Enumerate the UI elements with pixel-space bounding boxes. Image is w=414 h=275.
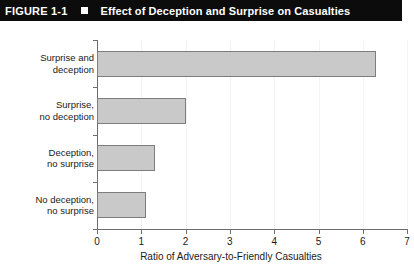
- category-label-line: Surprise and: [0, 52, 94, 64]
- x-tick-label: 6: [353, 236, 373, 247]
- category-label-line: Deception,: [0, 147, 94, 159]
- x-tick-label: 3: [220, 236, 240, 247]
- x-tick: [363, 230, 364, 234]
- category-label: Surprise,no deception: [0, 99, 94, 122]
- category-label-line: No deception,: [0, 194, 94, 206]
- x-axis-line: [97, 229, 408, 230]
- y-tick: [93, 182, 98, 183]
- figure-header-bar: FIGURE 1-1 Effect of Deception and Surpr…: [0, 0, 402, 21]
- category-label-line: deception: [0, 64, 94, 76]
- bar: [97, 51, 376, 77]
- x-tick: [407, 230, 408, 234]
- category-label: No deception,no surprise: [0, 194, 94, 217]
- square-bullet-icon: [81, 7, 88, 14]
- y-tick: [93, 135, 98, 136]
- figure-title: Effect of Deception and Surprise on Casu…: [101, 5, 351, 17]
- x-axis-title: Ratio of Adversary-to-Friendly Casualtie…: [0, 251, 402, 262]
- category-label-line: no surprise: [0, 158, 94, 170]
- x-tick: [319, 230, 320, 234]
- category-label-line: Surprise,: [0, 99, 94, 111]
- y-tick: [93, 87, 98, 88]
- x-tick: [274, 230, 275, 234]
- bar: [97, 145, 155, 171]
- x-tick: [230, 230, 231, 234]
- category-label-line: no surprise: [0, 205, 94, 217]
- category-label: Surprise anddeception: [0, 52, 94, 75]
- x-tick-label: 7: [397, 236, 414, 247]
- x-tick: [186, 230, 187, 234]
- x-tick-label: 5: [309, 236, 329, 247]
- bar-chart: Surprise anddeceptionSurprise,no decepti…: [0, 21, 402, 275]
- x-tick: [97, 230, 98, 234]
- gridline-7: [407, 40, 408, 229]
- bar: [97, 98, 186, 124]
- x-tick-label: 1: [131, 236, 151, 247]
- figure-number: FIGURE 1-1: [5, 5, 68, 17]
- x-tick: [141, 230, 142, 234]
- category-label-line: no deception: [0, 111, 94, 123]
- y-tick: [93, 40, 98, 41]
- x-tick-label: 2: [176, 236, 196, 247]
- bar: [97, 192, 146, 218]
- x-tick-label: 4: [264, 236, 284, 247]
- category-label: Deception,no surprise: [0, 147, 94, 170]
- x-tick-label: 0: [87, 236, 107, 247]
